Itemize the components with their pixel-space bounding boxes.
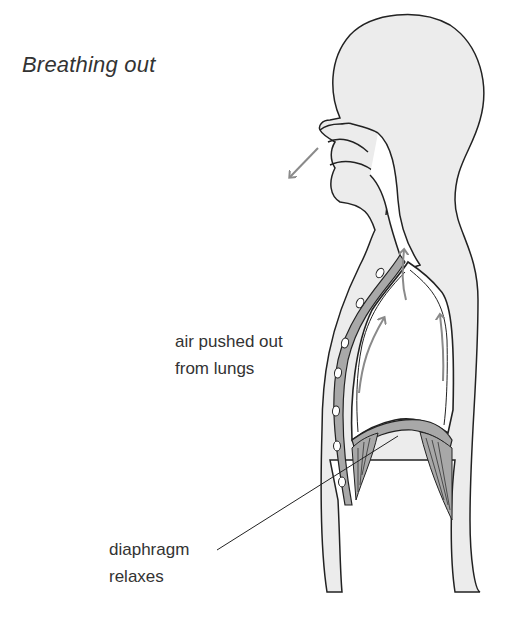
- label-air-line1: air pushed out: [175, 328, 283, 355]
- label-diaphragm-line1: diaphragm: [109, 536, 189, 563]
- label-diaphragm-line2: relaxes: [109, 563, 189, 590]
- label-diaphragm-relaxes: diaphragm relaxes: [109, 536, 189, 590]
- label-air-line2: from lungs: [175, 355, 283, 382]
- arrow-exhale-mouth: [290, 148, 318, 177]
- diaphragm-leader-line: [217, 436, 398, 550]
- diaphragm-muscle-right: [420, 432, 452, 520]
- breathing-diagram: [0, 0, 505, 627]
- label-air-pushed-out: air pushed out from lungs: [175, 328, 283, 382]
